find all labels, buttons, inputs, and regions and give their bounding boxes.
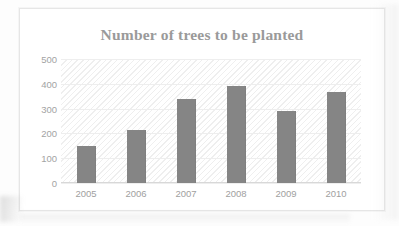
x-axis: 200520062007200820092010 <box>61 188 361 204</box>
y-axis: 5004003002001000 <box>21 59 57 183</box>
bar-series <box>61 59 361 183</box>
y-tick-label: 200 <box>23 128 57 139</box>
bar-2009 <box>277 111 296 183</box>
scan-artifact-bottom <box>20 214 350 224</box>
x-tick-label: 2008 <box>212 188 260 199</box>
gridline <box>61 183 361 184</box>
y-tick-label: 0 <box>23 178 57 189</box>
bar-2005 <box>77 146 96 183</box>
x-tick-label: 2010 <box>312 188 360 199</box>
bar-2007 <box>177 99 196 183</box>
x-tick-label: 2007 <box>162 188 210 199</box>
bar-2006 <box>127 130 146 183</box>
y-tick-label: 300 <box>23 103 57 114</box>
bar-2008 <box>227 86 246 183</box>
y-tick-label: 500 <box>23 54 57 65</box>
y-tick-label: 400 <box>23 78 57 89</box>
x-tick-label: 2005 <box>62 188 110 199</box>
x-tick-label: 2009 <box>262 188 310 199</box>
x-tick-label: 2006 <box>112 188 160 199</box>
y-tick-label: 100 <box>23 153 57 164</box>
bar-2010 <box>327 92 346 183</box>
chart-figure: Number of trees to be planted 5004003002… <box>0 0 399 226</box>
chart-title: Number of trees to be planted <box>19 26 385 44</box>
